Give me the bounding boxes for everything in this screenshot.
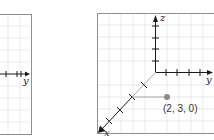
z-axis	[152, 21, 159, 72]
point-label: (2, 3, 0)	[163, 103, 197, 114]
left-y-axis-label: y	[22, 75, 29, 86]
y-axis-label: y	[205, 74, 212, 85]
y-axis	[156, 69, 209, 76]
axes-diagram: y z y	[0, 0, 214, 140]
point-marker	[164, 94, 170, 100]
z-arrow-icon	[153, 15, 158, 22]
x-axis-label: x	[104, 127, 110, 138]
z-axis-label: z	[159, 12, 166, 23]
